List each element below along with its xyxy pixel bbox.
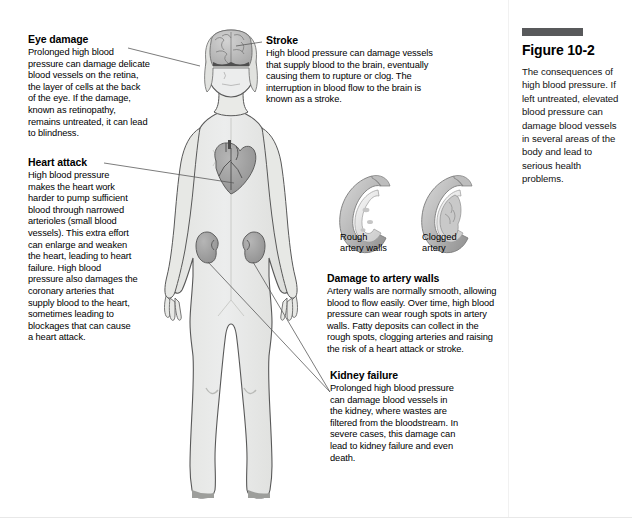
label-clogged-artery: Clogged artery: [422, 232, 486, 255]
callout-eye-damage-body: Prolonged high blood pressure can damage…: [28, 47, 150, 140]
callout-kidney-failure-body: Prolonged high blood pressure can damage…: [330, 383, 462, 464]
callout-artery-walls-title: Damage to artery walls: [327, 272, 503, 285]
figure-caption-panel: Figure 10-2 The consequences of high blo…: [522, 28, 622, 186]
callout-heart-attack-title: Heart attack: [28, 156, 138, 169]
callout-kidney-failure-title: Kidney failure: [330, 369, 462, 382]
callout-heart-attack-body: High blood pressure makes the heart work…: [28, 170, 138, 344]
figure-10-2-diagram: Eye damage Prolonged high blood pressure…: [0, 0, 632, 518]
panel-divider: [508, 0, 509, 518]
callout-stroke-body: High blood pressure can damage vessels t…: [266, 48, 446, 106]
callout-artery-walls-body: Artery walls are normally smooth, allowi…: [327, 286, 503, 356]
label-rough-artery-walls: Rough artery walls: [340, 232, 404, 255]
callout-stroke: Stroke High blood pressure can damage ve…: [266, 34, 446, 106]
callout-stroke-title: Stroke: [266, 34, 446, 47]
label-rough-artery-walls-line2: artery walls: [340, 243, 404, 254]
label-clogged-artery-line1: Clogged: [422, 232, 486, 243]
figure-caption-text: The consequences of high blood pressure.…: [522, 65, 622, 186]
callout-eye-damage-title: Eye damage: [28, 33, 150, 46]
label-rough-artery-walls-line1: Rough: [340, 232, 404, 243]
callout-eye-damage: Eye damage Prolonged high blood pressure…: [28, 33, 150, 140]
callout-kidney-failure: Kidney failure Prolonged high blood pres…: [330, 369, 462, 464]
label-clogged-artery-line2: artery: [422, 243, 486, 254]
figure-number: Figure 10-2: [522, 42, 622, 58]
callout-damage-to-artery-walls: Damage to artery walls Artery walls are …: [327, 272, 503, 356]
callout-heart-attack: Heart attack High blood pressure makes t…: [28, 156, 138, 344]
caption-rule-bar: [522, 28, 583, 36]
